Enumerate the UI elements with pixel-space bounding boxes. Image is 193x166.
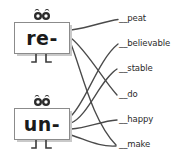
word-item-peat[interactable]: __peat: [119, 14, 146, 23]
eyes-icon: [31, 94, 53, 108]
prefix-matching-worksheet: re- un- __peat __believable __sta: [0, 0, 193, 166]
word-item-do[interactable]: __do: [119, 90, 138, 99]
prefix-card-re-label: re-: [26, 29, 58, 48]
connector-un-happy: [71, 120, 117, 129]
word-list: __peat __believable __stable __do __happ…: [119, 0, 193, 166]
word-item-make[interactable]: __make: [119, 140, 150, 149]
connector-re-peat: [71, 20, 118, 31]
connector-re-make: [71, 44, 116, 145]
legs-icon: [29, 54, 55, 65]
legs-icon: [29, 140, 55, 151]
prefix-card-un-label: un-: [24, 115, 60, 134]
word-item-happy[interactable]: __happy: [119, 115, 153, 124]
connector-un-believable: [71, 44, 118, 116]
word-item-believable[interactable]: __believable: [119, 39, 170, 48]
word-item-stable[interactable]: __stable: [119, 64, 153, 73]
connector-un-make: [71, 135, 116, 146]
connector-re-do: [71, 38, 117, 95]
connector-un-stable: [71, 69, 117, 123]
eyes-icon: [31, 8, 53, 22]
prefix-card-re[interactable]: re-: [14, 22, 70, 54]
prefix-card-un[interactable]: un-: [14, 108, 70, 140]
